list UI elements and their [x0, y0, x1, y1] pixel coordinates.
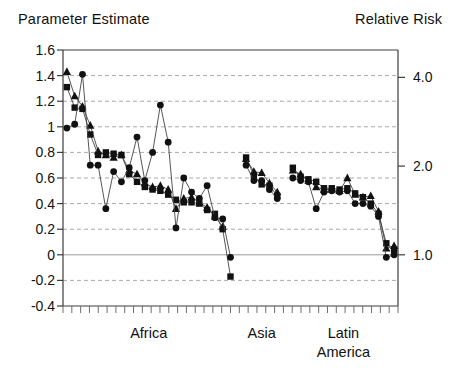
series-filled-circle [63, 71, 397, 261]
circle-marker [375, 213, 382, 220]
left-tick-label: -0.2 [31, 272, 55, 288]
circle-marker [188, 189, 195, 196]
circle-marker [313, 205, 320, 212]
circle-marker [360, 200, 367, 207]
circle-marker [134, 134, 141, 141]
region-label-africa: Africa [130, 325, 168, 341]
circle-marker [227, 254, 234, 261]
series-filled-square [64, 84, 398, 280]
square-marker [227, 273, 233, 279]
x-axis-ticks [63, 306, 398, 313]
circle-marker [102, 205, 109, 212]
square-marker [181, 199, 187, 205]
circle-marker [266, 186, 273, 193]
left-tick-label: 0.4 [36, 196, 56, 212]
circle-marker [383, 254, 390, 261]
square-marker [142, 184, 148, 190]
region-label-latin-america: America [317, 344, 371, 360]
circle-marker [87, 162, 94, 169]
left-tick-label: 1.2 [36, 93, 56, 109]
square-marker [64, 84, 70, 90]
circle-marker [95, 162, 102, 169]
square-marker [243, 154, 249, 160]
square-marker [313, 179, 319, 185]
circle-marker [180, 175, 187, 182]
y-axis-left: 1.61.41.210.80.60.40.20-0.2-0.4 [31, 42, 63, 314]
triangle-marker [71, 92, 79, 100]
left-tick-label: 0.8 [36, 144, 56, 160]
circle-marker [141, 177, 148, 184]
square-marker [360, 194, 366, 200]
left-tick-label: 1.4 [36, 68, 56, 84]
square-marker [352, 190, 358, 196]
square-marker [290, 165, 296, 171]
triangle-marker [343, 174, 351, 182]
circle-marker [219, 216, 226, 223]
square-marker [134, 179, 140, 185]
circle-marker [212, 214, 219, 221]
series-filled-triangle [63, 67, 398, 251]
circle-marker [328, 187, 335, 194]
right-tick-label: 2.0 [413, 158, 433, 174]
circle-marker [71, 121, 78, 128]
left-tick-label: -0.4 [31, 298, 55, 314]
circle-marker [297, 177, 304, 184]
circle-marker [157, 102, 164, 109]
square-marker [204, 207, 210, 213]
circle-marker [196, 195, 203, 202]
right-tick-label: 4.0 [413, 69, 433, 85]
left-tick-label: 0.6 [36, 170, 56, 186]
chart-page: { "colors": { "background": "#ffffff", "… [0, 0, 461, 380]
y-axis-right: 4.02.01.0 [398, 69, 433, 262]
region-label-latin-america: Latin [328, 325, 359, 341]
triangle-marker [367, 192, 375, 200]
square-marker [79, 106, 85, 112]
square-marker [157, 188, 163, 194]
circle-marker [258, 177, 265, 184]
circle-marker [352, 200, 359, 207]
circle-marker [250, 177, 257, 184]
circle-marker [173, 225, 180, 232]
circle-marker [274, 195, 281, 202]
square-marker [149, 186, 155, 192]
square-marker [110, 150, 116, 156]
circle-marker [289, 175, 296, 182]
square-marker [95, 152, 101, 158]
region-labels: AfricaAsiaLatinAmerica [130, 325, 371, 360]
square-marker [118, 152, 124, 158]
circle-marker [126, 164, 133, 171]
region-label-asia: Asia [248, 325, 277, 341]
circle-marker [321, 189, 328, 196]
triangle-marker [63, 67, 71, 75]
circle-marker [165, 139, 172, 146]
circle-marker [344, 187, 351, 194]
left-tick-label: 1 [47, 119, 55, 135]
circle-marker [391, 251, 398, 258]
square-marker [188, 199, 194, 205]
triangle-marker [133, 170, 141, 178]
left-tick-label: 0 [47, 247, 55, 263]
left-tick-label: 0.2 [36, 221, 56, 237]
circle-marker [204, 182, 211, 189]
circle-marker [367, 203, 374, 210]
circle-marker [110, 168, 117, 175]
square-marker [165, 191, 171, 197]
left-tick-label: 1.6 [36, 42, 56, 58]
circle-marker [305, 178, 312, 185]
circle-marker [149, 149, 156, 156]
circle-marker [336, 189, 343, 196]
circle-marker [79, 71, 86, 78]
series-line [67, 87, 231, 277]
square-marker [103, 149, 109, 155]
circle-marker [243, 162, 250, 169]
right-tick-label: 1.0 [413, 247, 433, 263]
circle-marker [63, 125, 70, 132]
scatter-plot: 1.61.41.210.80.60.40.20-0.2-0.44.02.01.0… [0, 0, 461, 380]
circle-marker [118, 178, 125, 185]
